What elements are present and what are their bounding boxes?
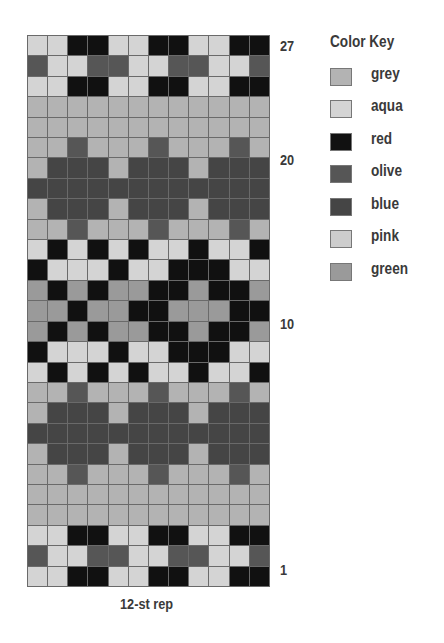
chart-cell	[129, 179, 148, 198]
chart-cell	[68, 118, 87, 137]
key-item-grey: grey	[330, 68, 440, 88]
chart-cell	[250, 383, 269, 402]
chart-cell	[149, 424, 168, 443]
chart-cell	[149, 260, 168, 279]
chart-cell	[169, 383, 188, 402]
chart-cell	[230, 342, 249, 361]
chart-cell	[109, 158, 128, 177]
chart-cell	[129, 97, 148, 116]
chart-cell	[169, 546, 188, 565]
chart-cell	[209, 526, 228, 545]
chart-cell	[189, 301, 208, 320]
chart-cell	[88, 424, 107, 443]
chart-cell	[149, 567, 168, 586]
chart-cell	[209, 97, 228, 116]
chart-cell	[230, 77, 249, 96]
chart-cell	[129, 403, 148, 422]
chart-cell	[28, 505, 47, 524]
chart-cell	[88, 199, 107, 218]
chart-cell	[250, 138, 269, 157]
chart-cell	[68, 342, 87, 361]
chart-cell	[230, 322, 249, 341]
chart-cell	[230, 260, 249, 279]
chart-cell	[209, 465, 228, 484]
chart-cell	[230, 424, 249, 443]
chart-cell	[189, 342, 208, 361]
chart-cell	[209, 220, 228, 239]
chart-cell	[189, 138, 208, 157]
chart-cell	[189, 444, 208, 463]
chart-cell	[149, 220, 168, 239]
chart-cell	[149, 56, 168, 75]
chart-cell	[250, 301, 269, 320]
chart-cell	[149, 97, 168, 116]
chart-cell	[209, 36, 228, 55]
chart-cell	[209, 363, 228, 382]
chart-cell	[109, 465, 128, 484]
chart-cell	[129, 546, 148, 565]
chart-cell	[28, 118, 47, 137]
chart-cell	[209, 77, 228, 96]
chart-cell	[169, 97, 188, 116]
key-label: olive	[371, 162, 402, 180]
chart-cell	[129, 260, 148, 279]
chart-cell	[189, 485, 208, 504]
chart-cell	[88, 363, 107, 382]
chart-cell	[169, 342, 188, 361]
chart-cell	[230, 220, 249, 239]
chart-cell	[28, 56, 47, 75]
chart-cell	[209, 158, 228, 177]
chart-cell	[250, 260, 269, 279]
swatch-aqua	[330, 100, 352, 118]
chart-cell	[209, 56, 228, 75]
chart-cell	[109, 199, 128, 218]
row-label-1: 1	[280, 561, 287, 578]
chart-cell	[109, 260, 128, 279]
chart-cell	[109, 240, 128, 259]
chart-cell	[28, 485, 47, 504]
chart-cell	[189, 77, 208, 96]
chart-cell	[88, 546, 107, 565]
chart-cell	[129, 485, 148, 504]
chart-cell	[189, 56, 208, 75]
chart-cell	[250, 158, 269, 177]
chart-cell	[209, 301, 228, 320]
chart-cell	[209, 179, 228, 198]
chart-cell	[48, 158, 67, 177]
chart-cell	[209, 322, 228, 341]
chart-cell	[48, 301, 67, 320]
chart-cell	[189, 546, 208, 565]
chart-cell	[68, 567, 87, 586]
chart-cell	[88, 281, 107, 300]
swatch-pink	[330, 230, 352, 248]
chart-cell	[169, 240, 188, 259]
chart-cell	[28, 97, 47, 116]
chart-cell	[28, 465, 47, 484]
chart-cell	[250, 220, 269, 239]
chart-cell	[250, 322, 269, 341]
chart-cell	[68, 444, 87, 463]
chart-cell	[169, 363, 188, 382]
chart-cell	[88, 56, 107, 75]
chart-cell	[68, 546, 87, 565]
chart-cell	[169, 322, 188, 341]
chart-cell	[28, 199, 47, 218]
chart-cell	[230, 179, 249, 198]
chart-cell	[189, 281, 208, 300]
chart-cell	[149, 363, 168, 382]
chart-cell	[88, 240, 107, 259]
swatch-olive	[330, 165, 352, 183]
chart-cell	[68, 281, 87, 300]
chart-cell	[88, 97, 107, 116]
chart-cell	[149, 240, 168, 259]
chart-cell	[189, 199, 208, 218]
chart-cell	[189, 322, 208, 341]
chart-cell	[230, 485, 249, 504]
color-key-title: Color Key	[330, 33, 394, 51]
chart-cell	[209, 567, 228, 586]
chart-cell	[68, 403, 87, 422]
chart-cell	[169, 403, 188, 422]
chart-cell	[48, 199, 67, 218]
chart-cell	[250, 199, 269, 218]
chart-cell	[250, 342, 269, 361]
